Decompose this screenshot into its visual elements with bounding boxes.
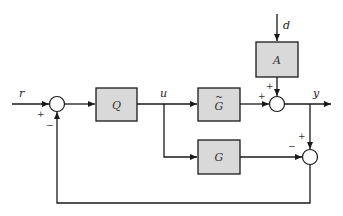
model-error-summing-junction	[303, 150, 318, 165]
input-sum-minus-sign: −	[46, 120, 54, 130]
block-g-label: G	[215, 151, 224, 164]
output-sum-plus-sign-top: +	[266, 81, 274, 91]
tilde-accent: ~	[215, 92, 223, 102]
error-sum-minus-sign: −	[288, 141, 296, 151]
reference-input-signal: r +	[12, 87, 49, 119]
output-sum-plus-sign-left: +	[258, 91, 266, 101]
input-sum-plus-sign: +	[37, 109, 45, 119]
block-g: G	[198, 140, 240, 174]
signal-label-r: r	[19, 87, 25, 100]
block-diagram: r + − Q u G ~ + d A + y + G	[0, 0, 343, 216]
signal-label-y: y	[312, 87, 320, 100]
input-summing-junction	[50, 97, 65, 112]
block-a-label: A	[272, 54, 281, 67]
signal-label-d: d	[283, 19, 290, 32]
error-sum-plus-sign: +	[298, 131, 306, 141]
block-g-tilde: G ~	[198, 88, 240, 121]
signal-label-u: u	[160, 87, 167, 100]
u-branch-to-g-line	[164, 104, 197, 157]
block-q: Q	[96, 88, 137, 121]
block-a: A	[256, 42, 298, 77]
block-q-label: Q	[112, 99, 121, 112]
output-summing-junction	[270, 97, 285, 112]
